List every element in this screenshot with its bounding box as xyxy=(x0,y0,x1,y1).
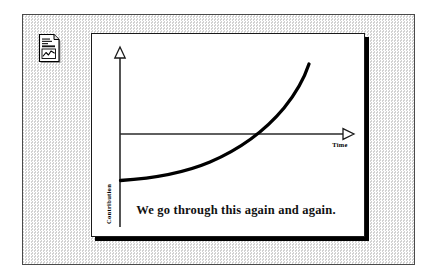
document-chart-icon[interactable] xyxy=(38,34,63,65)
slide-caption: We go through this again and again. xyxy=(136,203,336,217)
y-axis-label: Contribution xyxy=(105,184,112,224)
contribution-curve xyxy=(121,64,310,181)
presentation-slide[interactable]: Time Contribution We go through this aga… xyxy=(91,33,365,237)
x-axis-arrowhead xyxy=(343,129,354,140)
screenshot-canvas: Time Contribution We go through this aga… xyxy=(0,0,437,279)
exponential-growth-chart: Time Contribution We go through this aga… xyxy=(92,34,365,237)
y-axis-arrowhead xyxy=(115,47,125,58)
x-axis-label: Time xyxy=(332,141,348,148)
